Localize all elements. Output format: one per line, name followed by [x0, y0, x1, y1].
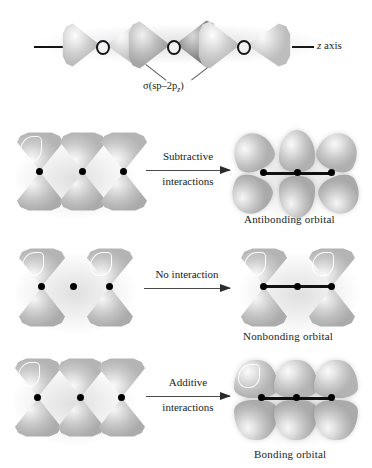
p-lobe-2-left — [128, 20, 170, 70]
nucleus-1 — [96, 40, 110, 55]
additive-reactant-nucleus-2 — [77, 394, 84, 401]
arrow-label-line1: Subtractive — [146, 150, 230, 163]
nonbond-product-nucleus-2 — [328, 283, 335, 290]
reactant-p-3-bottom — [100, 172, 148, 211]
sigma-label-text: σ(sp–2p — [143, 80, 177, 91]
additive-reactant-nucleus-3 — [118, 394, 125, 401]
arrow-head — [220, 392, 231, 400]
sigma-orbital-label: σ(sp–2pz) — [143, 80, 184, 94]
bonding-lobe-1-top — [234, 360, 278, 398]
reactant-nucleus-3 — [120, 168, 127, 175]
nonbond-product-nucleus-mid — [294, 283, 301, 290]
bonding-lobe-3-bottom — [314, 400, 358, 440]
product-nucleus-2 — [294, 169, 301, 176]
bonding-lobe-2-bottom — [274, 400, 318, 440]
sp-lobe-1-left — [62, 22, 100, 68]
product-nucleus-1 — [260, 169, 267, 176]
nonbond-product-p-2-bottom — [308, 287, 356, 327]
reactant-p-1-top — [16, 132, 64, 171]
product-lobe-2-top — [279, 130, 315, 172]
arrow-label-line2: interactions — [146, 401, 230, 414]
additive-reactant-p-3-top — [98, 358, 146, 397]
orbital-interaction-figure: σ(sp–2pz) z axis Subtractive interaction… — [0, 0, 372, 468]
nonbond-product-nucleus-1 — [260, 283, 267, 290]
additive-reactant-p-3-bottom — [98, 398, 146, 437]
additive-reactant-p-1-top — [14, 358, 62, 397]
arrow-label-additive-2: interactions — [146, 401, 230, 414]
sigma-label-close: ) — [180, 80, 184, 91]
reactant-p-3-top — [100, 132, 148, 171]
caption-bonding: Bonding orbital — [254, 448, 326, 460]
nonbond-product-p-2-top — [308, 248, 356, 286]
reactant-p-1-bottom — [16, 172, 64, 211]
arrow-label-line1: Additive — [146, 376, 230, 389]
nucleus-2 — [167, 40, 181, 55]
bonding-nucleus-1 — [258, 394, 265, 401]
nonbond-product-p-1-top — [240, 248, 288, 286]
reactant-nucleus-1 — [36, 168, 43, 175]
reactant-nucleus-2 — [79, 168, 86, 175]
arrow-label-subtractive-2: interactions — [146, 175, 230, 188]
nonbond-reactant-p-2-bottom — [86, 287, 134, 327]
nonbond-product-p-1-bottom — [240, 287, 288, 327]
nonbond-reactant-p-1-top — [18, 248, 66, 286]
nucleus-3 — [237, 40, 251, 55]
arrow-label-subtractive: Subtractive — [146, 150, 230, 163]
nonbond-center-nucleus — [70, 283, 77, 290]
product-nucleus-3 — [328, 169, 335, 176]
arrow-no-interaction — [144, 282, 230, 296]
bonding-nucleus-2 — [293, 394, 300, 401]
arrow-label-additive: Additive — [146, 376, 230, 389]
arrow-shaft — [146, 396, 230, 397]
arrow-head — [220, 166, 231, 174]
sp-lobe-3-left — [198, 20, 240, 70]
arrow-label-line1: No interaction — [142, 268, 232, 281]
nonbond-reactant-nucleus-2 — [106, 283, 113, 290]
bonding-lobe-1-bottom — [234, 400, 278, 440]
arrow-shaft — [144, 288, 230, 289]
bonding-lobe-2-top — [274, 360, 318, 398]
arrow-label-line2: interactions — [146, 175, 230, 188]
arrow-head — [220, 284, 231, 292]
nonbond-reactant-p-1-bottom — [18, 287, 66, 327]
bonding-nucleus-3 — [328, 394, 335, 401]
arrow-shaft — [146, 170, 230, 171]
arrow-label-no-interaction: No interaction — [142, 268, 232, 281]
additive-reactant-nucleus-1 — [34, 394, 41, 401]
nonbond-reactant-nucleus-1 — [38, 283, 45, 290]
product-lobe-2-bottom — [279, 176, 315, 218]
additive-reactant-p-1-bottom — [14, 398, 62, 437]
bonding-lobe-3-top — [314, 360, 358, 398]
sp-lobe-3-right — [247, 22, 291, 68]
nonbond-reactant-p-2-top — [86, 248, 134, 286]
